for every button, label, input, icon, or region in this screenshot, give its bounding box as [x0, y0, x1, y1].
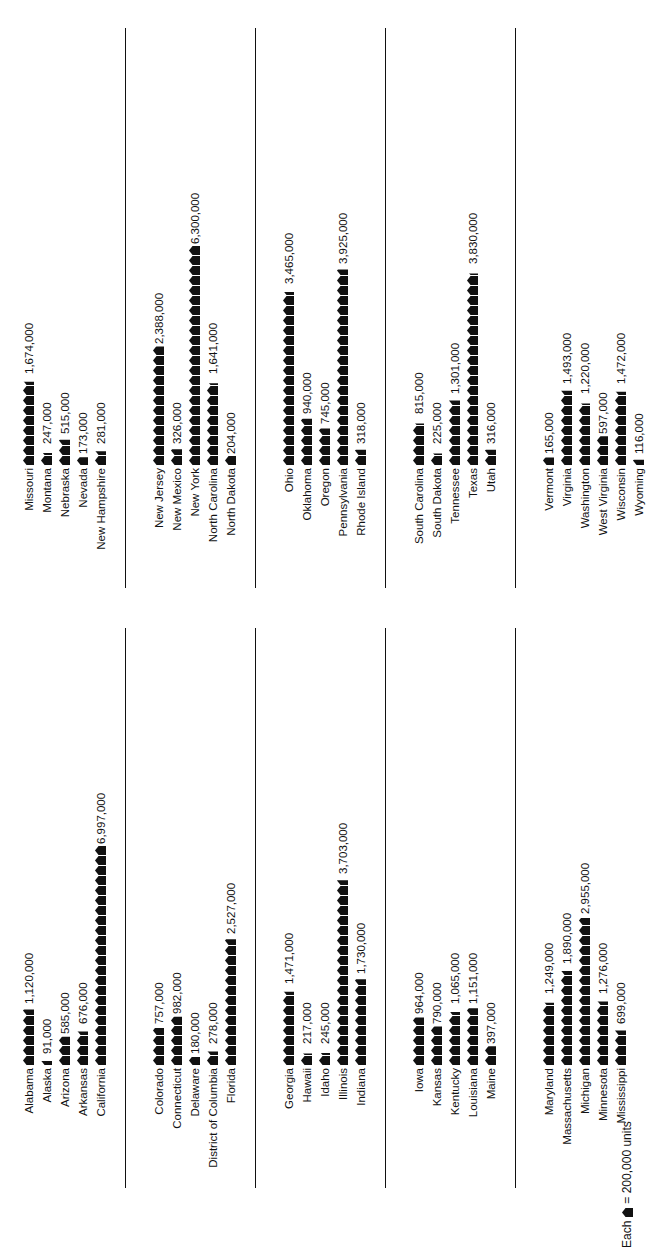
- house-icon: [337, 366, 348, 375]
- state-value: 3,830,000: [467, 213, 479, 264]
- house-icon: [283, 436, 294, 445]
- house-icon: [95, 846, 106, 855]
- house-icon: [283, 296, 294, 305]
- house-icon: [189, 276, 200, 285]
- state-value: 225,000: [431, 402, 443, 444]
- house-icon: [467, 1056, 478, 1065]
- state-row: Utah316,000: [482, 402, 499, 588]
- house-icon: [189, 376, 200, 385]
- house-icon: [283, 456, 294, 465]
- state-name: Louisiana: [467, 1065, 479, 1188]
- state-value: 6,997,000: [95, 793, 107, 844]
- house-icon: [189, 306, 200, 315]
- house-icon-partial: [413, 1016, 424, 1025]
- icon-bar: [59, 435, 70, 465]
- house-icon: [337, 946, 348, 955]
- house-icon: [189, 406, 200, 415]
- house-icon: [413, 1026, 424, 1035]
- house-icon: [189, 346, 200, 355]
- state-value: 1,472,000: [615, 333, 627, 384]
- house-icon: [431, 456, 442, 465]
- house-icon: [467, 436, 478, 445]
- house-icon: [467, 1026, 478, 1035]
- house-icon-partial: [431, 1026, 442, 1035]
- state-name: Wyoming: [633, 465, 645, 588]
- house-icon: [467, 326, 478, 335]
- state-row: Delaware180,000: [186, 1012, 203, 1188]
- state-name: New Jersey: [153, 465, 165, 588]
- house-icon: [225, 1046, 236, 1055]
- house-icon: [337, 926, 348, 935]
- house-icon: [467, 426, 478, 435]
- state-group: Iowa964,000Kansas790,000Kentucky1,065,00…: [410, 628, 516, 1188]
- house-icon: [413, 426, 424, 435]
- house-icon: [225, 1026, 236, 1035]
- house-icon: [189, 246, 200, 255]
- house-icon-partial: [337, 876, 348, 885]
- house-icon: [467, 346, 478, 355]
- house-icon: [337, 986, 348, 995]
- state-name: Wisconsin: [615, 465, 627, 588]
- house-icon: [207, 436, 218, 445]
- icon-bar: [561, 385, 572, 465]
- state-name: Virginia: [561, 465, 573, 588]
- group-divider: [255, 628, 256, 1188]
- house-icon: [337, 426, 348, 435]
- house-icon-partial: [153, 346, 164, 355]
- icon-bar: [449, 1005, 460, 1065]
- house-icon: [207, 456, 218, 465]
- house-icon: [283, 316, 294, 325]
- icon-bar: [579, 395, 590, 465]
- group-divider: [385, 28, 386, 588]
- house-icon: [355, 1056, 366, 1065]
- state-row: Texas3,830,000: [464, 213, 481, 588]
- house-icon-partial: [597, 436, 608, 445]
- icon-bar: [355, 975, 366, 1065]
- icon-bar: [615, 1025, 626, 1065]
- house-icon: [449, 1026, 460, 1035]
- house-icon: [597, 1056, 608, 1065]
- house-icon: [189, 456, 200, 465]
- state-name: Florida: [225, 1065, 237, 1188]
- house-icon: [189, 396, 200, 405]
- state-group: Maryland1,249,000Massachusetts1,890,000M…: [540, 628, 646, 1188]
- house-icon: [189, 316, 200, 325]
- house-icon: [283, 996, 294, 1005]
- state-row: New Hampshire281,000: [92, 402, 109, 588]
- house-icon: [95, 1046, 106, 1055]
- icon-bar: [597, 995, 608, 1065]
- icon-bar: [301, 1045, 312, 1065]
- state-name: Pennsylvania: [337, 465, 349, 588]
- house-icon: [449, 1016, 460, 1025]
- state-row: North Dakota204,000: [222, 412, 239, 588]
- house-icon-partial: [283, 286, 294, 295]
- house-icon: [597, 456, 608, 465]
- house-icon: [467, 1036, 478, 1045]
- house-icon: [283, 1056, 294, 1065]
- state-row: Florida2,527,000: [222, 883, 239, 1188]
- house-icon: [337, 286, 348, 295]
- house-icon: [283, 406, 294, 415]
- house-icon: [467, 416, 478, 425]
- house-icon-partial: [543, 456, 554, 465]
- house-icon: [467, 376, 478, 385]
- house-icon: [189, 356, 200, 365]
- house-icon: [283, 396, 294, 405]
- house-icon: [579, 426, 590, 435]
- house-icon-partial: [355, 976, 366, 985]
- house-icon: [337, 1026, 348, 1035]
- house-icon: [543, 1006, 554, 1015]
- icon-bar: [23, 1005, 34, 1065]
- house-icon: [95, 886, 106, 895]
- state-value: 180,000: [189, 1012, 201, 1054]
- house-icon: [95, 896, 106, 905]
- house-icon: [449, 426, 460, 435]
- icon-bar: [431, 1025, 442, 1065]
- house-icon: [59, 446, 70, 455]
- state-name: New Hampshire: [95, 465, 107, 588]
- house-icon: [615, 456, 626, 465]
- house-icon: [95, 1056, 106, 1065]
- house-icon: [171, 1046, 182, 1055]
- house-icon: [189, 286, 200, 295]
- house-icon: [225, 996, 236, 1005]
